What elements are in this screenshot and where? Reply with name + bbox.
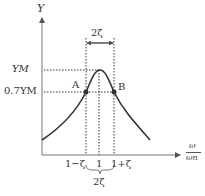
ym-label: YM xyxy=(12,63,29,74)
point-a xyxy=(84,90,89,95)
top-width-label: 2ζ xyxy=(91,27,103,38)
y07-label: 0.7YM xyxy=(4,85,37,96)
point-a-label: A xyxy=(72,79,79,90)
tick-1: 1 xyxy=(96,158,102,169)
bottom-width-label: 2ζ xyxy=(93,176,105,187)
y-axis-label: Y xyxy=(37,2,44,15)
response-curve xyxy=(42,70,150,140)
point-b-label: B xyxy=(118,81,125,92)
point-b xyxy=(112,90,117,95)
tick-1-minus-zeta: 1−ζ xyxy=(65,158,85,169)
x-label-num: ω xyxy=(189,141,196,150)
x-label-den: ωn xyxy=(186,153,198,162)
tick-1-plus-zeta: 1+ζ xyxy=(111,158,131,169)
